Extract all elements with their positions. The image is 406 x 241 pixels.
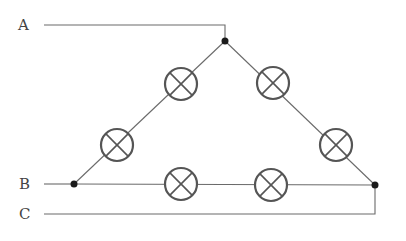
line-label-c: C [19, 205, 30, 223]
delta-side-bc [74, 184, 375, 185]
line-label-b: B [19, 175, 30, 193]
lamp-icon [101, 129, 133, 161]
right-node [372, 182, 379, 189]
top-node [222, 38, 229, 45]
line-a-wire [44, 25, 225, 41]
lamp-icon [165, 168, 197, 200]
lamps-group [101, 67, 352, 201]
lamp-icon [320, 129, 352, 161]
line-c-wire [44, 185, 375, 214]
lamp-icon [255, 169, 287, 201]
junction-nodes [71, 38, 379, 189]
line-label-a: A [17, 16, 29, 34]
lamp-icon [165, 68, 197, 100]
left-node [71, 181, 78, 188]
delta-side-ac [225, 41, 375, 185]
delta-side-ab [74, 41, 225, 184]
delta-lamp-circuit: A B C [0, 0, 406, 241]
lamp-icon [257, 67, 289, 99]
